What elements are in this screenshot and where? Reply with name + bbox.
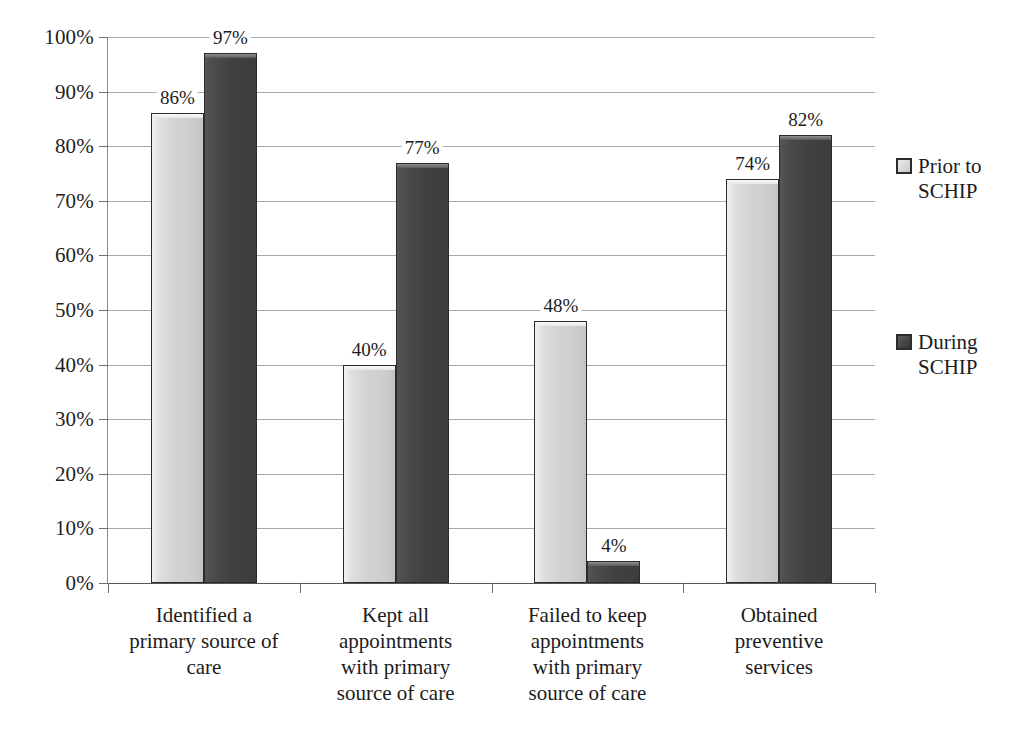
- bar-value-label: 74%: [732, 153, 773, 175]
- bar-group: 40%77%: [343, 37, 449, 583]
- y-axis-label-20pct: 20%: [0, 461, 94, 486]
- bar[interactable]: 97%: [204, 53, 257, 583]
- y-axis-label-80pct: 80%: [0, 134, 94, 159]
- x-axis-tick-4: [875, 583, 876, 593]
- bar[interactable]: 82%: [779, 135, 832, 583]
- bar[interactable]: 74%: [726, 179, 779, 583]
- bar-value-label: 40%: [349, 339, 390, 361]
- y-axis-label-0pct: 0%: [0, 571, 94, 596]
- bar-group: 86%97%: [151, 37, 257, 583]
- y-axis-tick-80pct: [99, 146, 108, 147]
- y-axis-tick-90pct: [99, 92, 108, 93]
- x-axis-category-label: Kept all appointments with primary sourc…: [300, 602, 492, 706]
- y-axis-tick-30pct: [99, 419, 108, 420]
- bar-group: 48%4%: [534, 37, 640, 583]
- y-axis-label-90pct: 90%: [0, 79, 94, 104]
- y-axis-tick-100pct: [99, 37, 108, 38]
- y-axis-label-40pct: 40%: [0, 352, 94, 377]
- bar[interactable]: 40%: [343, 365, 396, 583]
- dark-gray-swatch-icon: [896, 334, 912, 350]
- x-axis-category-label: Failed to keep appointments with primary…: [492, 602, 684, 706]
- bar-group: 74%82%: [726, 37, 832, 583]
- bar[interactable]: 48%: [534, 321, 587, 583]
- y-axis-tick-40pct: [99, 365, 108, 366]
- bar[interactable]: 4%: [587, 561, 640, 583]
- bar-value-label: 82%: [785, 109, 826, 131]
- grouped-bar-chart: 0%10%20%30%40%50%60%70%80%90%100% 86%97%…: [0, 0, 1036, 737]
- bar-value-label: 48%: [540, 295, 581, 317]
- bar[interactable]: 86%: [151, 113, 204, 583]
- y-axis-label-30pct: 30%: [0, 407, 94, 432]
- y-axis-tick-10pct: [99, 528, 108, 529]
- legend-label-prior-to-schip: Prior to SCHIP: [918, 154, 982, 204]
- x-axis-tick-0: [108, 583, 109, 593]
- bar-value-label: 4%: [598, 535, 629, 557]
- bar[interactable]: 77%: [396, 163, 449, 583]
- y-axis-tick-20pct: [99, 474, 108, 475]
- legend-item-during-schip[interactable]: During SCHIP: [896, 330, 978, 380]
- x-axis-tick-1: [300, 583, 301, 593]
- bar-value-label: 86%: [157, 87, 198, 109]
- legend-item-prior-to-schip[interactable]: Prior to SCHIP: [896, 154, 982, 204]
- bar-value-label: 77%: [402, 137, 443, 159]
- x-axis-category-label: Obtained preventive services: [683, 602, 875, 680]
- y-axis-label-70pct: 70%: [0, 188, 94, 213]
- y-axis-label-10pct: 10%: [0, 516, 94, 541]
- light-gray-swatch-icon: [896, 158, 912, 174]
- x-axis-tick-2: [492, 583, 493, 593]
- y-axis-label-60pct: 60%: [0, 243, 94, 268]
- y-axis-tick-70pct: [99, 201, 108, 202]
- legend-label-during-schip: During SCHIP: [918, 330, 978, 380]
- y-axis-tick-0pct: [99, 583, 108, 584]
- bar-value-label: 97%: [210, 27, 251, 49]
- plot-area: 86%97%40%77%48%4%74%82%: [108, 37, 875, 583]
- x-axis-tick-3: [683, 583, 684, 593]
- y-axis-label-100pct: 100%: [0, 25, 94, 50]
- x-axis-category-label: Identified a primary source of care: [108, 602, 300, 680]
- y-axis-label-50pct: 50%: [0, 298, 94, 323]
- y-axis-tick-60pct: [99, 255, 108, 256]
- y-axis-tick-50pct: [99, 310, 108, 311]
